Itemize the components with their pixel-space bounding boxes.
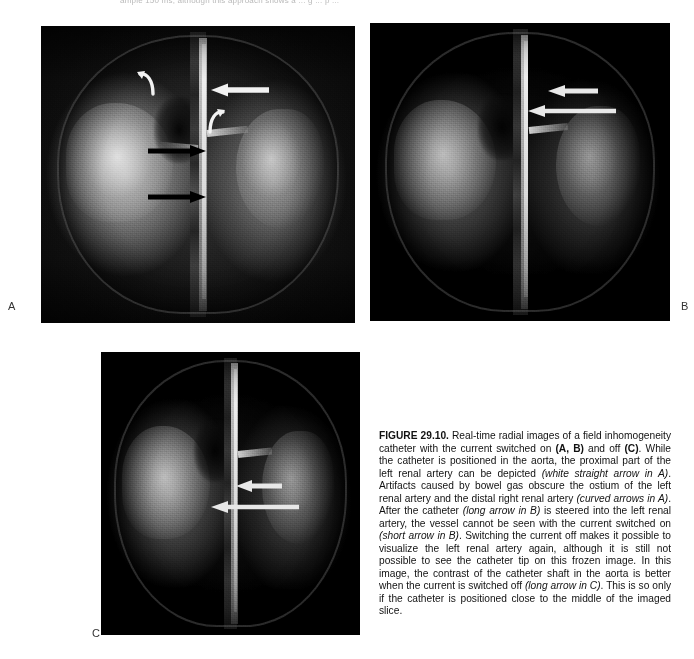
top-cutoff-text: ample 150 ms, although this approach sho… [120,0,540,5]
panel-label-c: C [92,627,100,639]
mri-image-a [41,26,355,323]
figure-caption: FIGURE 29.10. Real-time radial images of… [379,430,671,618]
figure-panel-c [101,352,360,635]
mri-vignette-c [101,352,360,635]
figure-panel-a [41,26,355,323]
panel-label-a: A [8,300,15,312]
mri-vignette-a [41,26,355,323]
panel-label-b: B [681,300,688,312]
figure-panel-b [370,23,670,321]
mri-image-b [370,23,670,321]
mri-image-c [101,352,360,635]
caption-rich-text: FIGURE 29.10. Real-time radial images of… [379,430,671,616]
figure-page: ample 150 ms, although this approach sho… [0,0,694,659]
mri-vignette-b [370,23,670,321]
